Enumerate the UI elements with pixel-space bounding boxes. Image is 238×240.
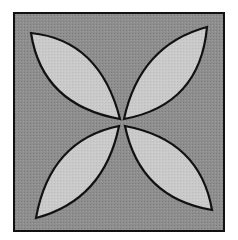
figure-canvas bbox=[0, 0, 238, 240]
diagram-svg bbox=[0, 0, 238, 240]
